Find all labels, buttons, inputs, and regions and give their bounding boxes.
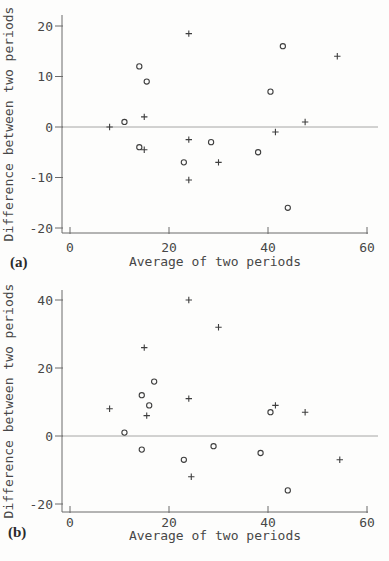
x-tick-label: 20 bbox=[161, 240, 177, 255]
panel-b-yaxis-title: Difference between two periods bbox=[1, 284, 16, 519]
data-point-plus bbox=[215, 159, 221, 165]
panel-a-xaxis-title: Average of two periods bbox=[129, 254, 301, 269]
data-point-circle bbox=[181, 160, 186, 165]
y-tick-label: 40 bbox=[37, 293, 53, 308]
data-point-circle bbox=[268, 89, 273, 94]
data-point-circle bbox=[285, 488, 290, 493]
y-tick-label: -10 bbox=[30, 170, 53, 185]
x-tick-label: 0 bbox=[66, 240, 74, 255]
data-point-plus bbox=[141, 344, 147, 350]
panel-b-label: (b) bbox=[8, 524, 26, 541]
data-point-circle bbox=[181, 457, 186, 462]
data-point-plus bbox=[186, 136, 192, 142]
y-tick-label: 10 bbox=[37, 69, 53, 84]
data-point-plus bbox=[186, 297, 192, 303]
y-tick-label: 0 bbox=[45, 120, 53, 135]
data-point-plus bbox=[106, 124, 112, 130]
data-point-circle bbox=[285, 205, 290, 210]
x-tick-label: 60 bbox=[359, 240, 375, 255]
x-tick-label: 40 bbox=[260, 240, 276, 255]
data-point-circle bbox=[152, 379, 157, 384]
panel-a: -20-10010200204060 Average of two period… bbox=[1, 7, 378, 271]
data-point-circle bbox=[211, 444, 216, 449]
data-point-circle bbox=[137, 64, 142, 69]
figure-canvas: -20-10010200204060 Average of two period… bbox=[0, 0, 389, 561]
data-point-plus bbox=[186, 30, 192, 36]
y-tick-label: 0 bbox=[45, 429, 53, 444]
data-point-circle bbox=[139, 447, 144, 452]
data-point-plus bbox=[106, 406, 112, 412]
panel-b-plot: -20020400204060 bbox=[30, 290, 378, 530]
data-point-plus bbox=[272, 402, 278, 408]
bland-altman-figure: -20-10010200204060 Average of two period… bbox=[0, 0, 389, 561]
data-point-plus bbox=[141, 114, 147, 120]
data-point-plus bbox=[337, 457, 343, 463]
data-point-plus bbox=[272, 129, 278, 135]
panel-a-label: (a) bbox=[10, 254, 28, 271]
data-point-circle bbox=[139, 393, 144, 398]
panel-b: -20020400204060 Average of two periods D… bbox=[1, 284, 378, 543]
y-tick-label: -20 bbox=[30, 497, 53, 512]
data-point-circle bbox=[147, 403, 152, 408]
panel-a-plot: -20-10010200204060 bbox=[30, 15, 378, 255]
data-point-plus bbox=[186, 395, 192, 401]
y-tick-label: 20 bbox=[37, 361, 53, 376]
data-point-circle bbox=[258, 450, 263, 455]
data-point-plus bbox=[186, 177, 192, 183]
data-point-plus bbox=[188, 474, 194, 480]
x-tick-label: 0 bbox=[66, 515, 74, 530]
y-tick-label: -20 bbox=[30, 221, 53, 236]
data-point-circle bbox=[208, 140, 213, 145]
data-point-circle bbox=[137, 145, 142, 150]
data-point-circle bbox=[144, 79, 149, 84]
data-point-plus bbox=[215, 324, 221, 330]
panel-b-xaxis-title: Average of two periods bbox=[129, 528, 301, 543]
x-tick-label: 60 bbox=[359, 515, 375, 530]
data-point-plus bbox=[144, 412, 150, 418]
data-point-plus bbox=[302, 409, 308, 415]
y-tick-label: 20 bbox=[37, 19, 53, 34]
data-point-plus bbox=[302, 119, 308, 125]
data-point-circle bbox=[268, 410, 273, 415]
data-point-plus bbox=[334, 53, 340, 59]
data-point-circle bbox=[122, 119, 127, 124]
data-point-circle bbox=[280, 44, 285, 49]
data-point-circle bbox=[122, 430, 127, 435]
data-point-circle bbox=[256, 150, 261, 155]
panel-a-yaxis-title: Difference between two periods bbox=[1, 7, 16, 242]
